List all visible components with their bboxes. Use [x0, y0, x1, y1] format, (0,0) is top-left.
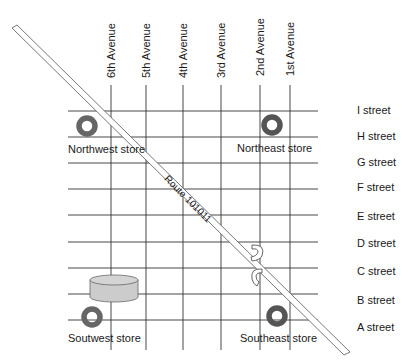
store-southeast-icon [269, 308, 285, 324]
street-label-h: H street [357, 130, 396, 142]
store-northwest-icon [79, 118, 95, 134]
store-northeast-icon [264, 117, 280, 133]
store-label-southwest: Soutwest store [68, 332, 141, 344]
avenue-label-6th: 6th Avenue [105, 23, 117, 78]
store-southwest-icon [84, 309, 100, 325]
avenue-label-4th: 4th Avenue [177, 23, 189, 78]
street-label-f: F street [357, 181, 394, 193]
avenue-label-3rd: 3rd Avenue [215, 23, 227, 78]
avenue-label-5th: 5th Avenue [140, 23, 152, 78]
street-label-i: I street [357, 104, 391, 116]
street-label-a: A street [357, 321, 394, 333]
store-label-northeast: Northeast store [237, 142, 312, 154]
street-label-c: C street [357, 265, 396, 277]
street-label-e: E street [357, 210, 395, 222]
street-label-b: B street [357, 294, 395, 306]
warehouse-cylinder-icon [90, 275, 138, 302]
city-map: 6th Avenue 5th Avenue 4th Avenue 3rd Ave… [0, 0, 410, 361]
avenue-label-1st: 1st Avenue [284, 22, 296, 76]
street-label-d: D street [357, 237, 396, 249]
store-label-southeast: Southeast store [240, 332, 317, 344]
map-graphics [0, 0, 410, 361]
street-label-g: G street [357, 156, 396, 168]
avenue-label-2nd: 2nd Avenue [254, 18, 266, 76]
store-label-northwest: Northwest store [68, 143, 145, 155]
